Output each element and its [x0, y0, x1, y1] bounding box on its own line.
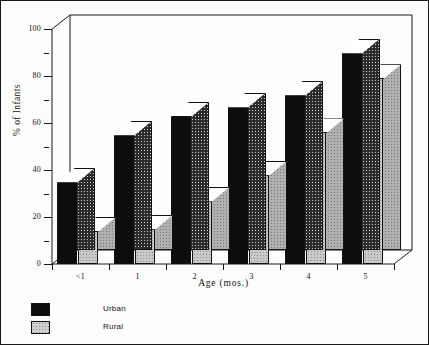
- x-tick: [223, 264, 224, 270]
- bar-urban-0: [57, 168, 95, 264]
- x-tick: [109, 264, 110, 270]
- x-tick: [394, 264, 395, 270]
- x-tick: [52, 264, 53, 270]
- bar-side: [305, 81, 323, 250]
- bar-urban-5: [342, 39, 380, 265]
- bar-side: [248, 93, 266, 250]
- bar-urban-3: [228, 93, 266, 264]
- bar-urban-2: [171, 102, 209, 264]
- bar-urban-4: [285, 81, 323, 264]
- bar-side: [134, 121, 152, 250]
- legend-swatch-urban: [31, 303, 50, 316]
- bar-side: [362, 39, 380, 251]
- legend-label-urban: Urban: [103, 304, 126, 313]
- legend-swatch-rural: [31, 321, 50, 334]
- bar-front: [342, 53, 362, 265]
- bars-layer: [1, 1, 429, 345]
- bar-side: [191, 102, 209, 250]
- x-tick: [337, 264, 338, 270]
- bar-front: [285, 95, 305, 264]
- legend-label-rural: Rural: [103, 322, 123, 331]
- bar-urban-1: [114, 121, 152, 264]
- x-tick: [166, 264, 167, 270]
- bar-side: [269, 161, 287, 250]
- x-axis-title: Age (mos.): [9, 278, 429, 288]
- figure-container: % of Infants 020406080100 <112345 Age (m…: [0, 0, 429, 345]
- bar-front: [228, 107, 248, 264]
- bar-side: [326, 118, 344, 250]
- bar-front: [171, 116, 191, 264]
- x-tick: [280, 264, 281, 270]
- bar-front: [114, 135, 134, 264]
- bar-front: [57, 182, 77, 264]
- bar-side: [383, 64, 401, 250]
